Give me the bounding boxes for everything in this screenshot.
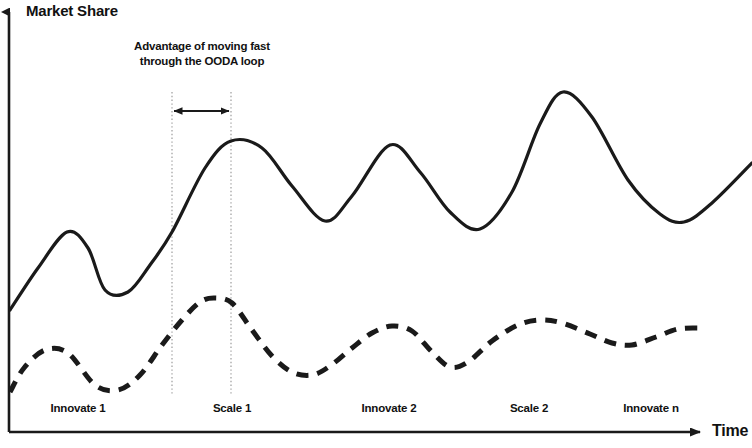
- phase-label-scale-2: Scale 2: [510, 402, 548, 414]
- phase-label-innovate-n: Innovate n: [623, 402, 679, 414]
- series-line-slower: [10, 298, 700, 392]
- series-line-fast-ooda: [10, 92, 752, 310]
- ooda-annotation-line-2: through the OODA loop: [92, 54, 312, 69]
- phase-label-innovate-1: Innovate 1: [51, 402, 106, 414]
- phase-label-scale-1: Scale 1: [213, 402, 251, 414]
- y-axis-title: Market Share: [26, 2, 118, 19]
- ooda-annotation-text: Advantage of moving fast through the OOD…: [92, 39, 312, 69]
- phase-label-innovate-2: Innovate 2: [362, 402, 417, 414]
- ooda-annotation-line-1: Advantage of moving fast: [92, 39, 312, 54]
- market-share-ooda-loop-chart: Market Share Advantage of moving fast th…: [0, 0, 752, 448]
- x-axis-title: Time: [712, 422, 748, 440]
